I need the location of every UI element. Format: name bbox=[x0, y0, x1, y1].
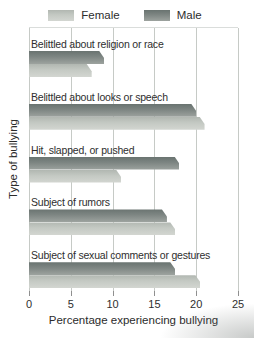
bar-male bbox=[29, 104, 196, 117]
x-tick-label: 20 bbox=[190, 298, 202, 310]
legend-swatch-female bbox=[48, 10, 74, 21]
category-label: Hit, slapped, or pushed bbox=[29, 143, 238, 157]
x-tick-label: 0 bbox=[26, 298, 32, 310]
x-tick-label: 25 bbox=[232, 298, 244, 310]
legend: Female Male bbox=[0, 7, 250, 23]
bar-male bbox=[29, 262, 175, 275]
x-tick-label: 5 bbox=[68, 298, 74, 310]
bar-female bbox=[29, 275, 200, 288]
legend-label-female: Female bbox=[81, 9, 119, 21]
category-label: Belittled about looks or speech bbox=[29, 90, 238, 104]
legend-item-female: Female bbox=[48, 9, 119, 21]
legend-item-male: Male bbox=[144, 9, 202, 21]
gridline bbox=[238, 28, 239, 292]
x-tick bbox=[71, 291, 72, 296]
bar-group-rumors: Subject of rumors bbox=[29, 186, 238, 239]
figure: Female Male Type of bullying Belittled a… bbox=[0, 0, 254, 338]
x-tick-label: 10 bbox=[106, 298, 118, 310]
bar-group-religion-race: Belittled about religion or race bbox=[29, 28, 238, 81]
x-tick bbox=[154, 291, 155, 296]
bar-male bbox=[29, 209, 167, 222]
x-tick bbox=[113, 291, 114, 296]
category-label: Belittled about religion or race bbox=[29, 37, 238, 51]
category-label: Subject of sexual comments or gestures bbox=[29, 248, 238, 262]
category-label: Subject of rumors bbox=[29, 195, 238, 209]
bar-group-looks-speech: Belittled about looks or speech bbox=[29, 81, 238, 134]
bar-group-sexual-comments: Subject of sexual comments or gestures bbox=[29, 239, 238, 292]
legend-swatch-male bbox=[144, 10, 170, 21]
y-axis-title: Type of bullying bbox=[7, 119, 19, 199]
x-tick bbox=[238, 291, 239, 296]
x-tick bbox=[29, 291, 30, 296]
plot-area: Belittled about religion or race Belittl… bbox=[29, 27, 238, 292]
x-axis-title: Percentage experiencing bullying bbox=[29, 314, 238, 326]
x-tick bbox=[196, 291, 197, 296]
legend-label-male: Male bbox=[177, 9, 202, 21]
x-tick-label: 15 bbox=[148, 298, 160, 310]
bar-group-hit-slapped-pushed: Hit, slapped, or pushed bbox=[29, 134, 238, 187]
bar-male bbox=[29, 157, 179, 170]
bar-male bbox=[29, 51, 104, 64]
bar-female bbox=[29, 117, 205, 130]
bar-female bbox=[29, 64, 92, 77]
bar-female bbox=[29, 170, 121, 183]
bar-female bbox=[29, 222, 175, 235]
